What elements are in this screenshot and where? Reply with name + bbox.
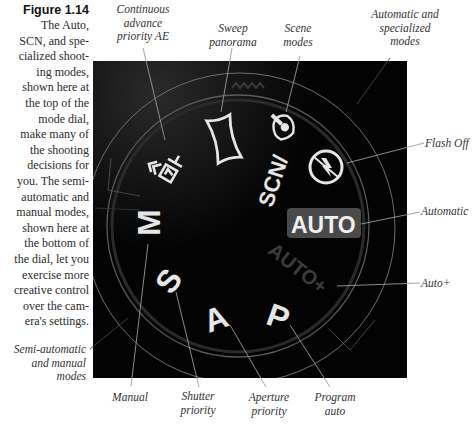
figure-number: Figure 1.14 xyxy=(0,2,89,18)
callout-program-auto: Program auto xyxy=(305,391,365,418)
auto-mode-badge: AUTO xyxy=(287,208,361,238)
caption-line: ing modes, xyxy=(0,65,89,81)
caption-line: creative control xyxy=(0,283,89,299)
callout-line: Program xyxy=(305,391,365,405)
auto-mode-label: AUTO xyxy=(291,212,356,238)
callout-line: Aperture xyxy=(238,391,300,405)
caption-line: The Auto, xyxy=(0,18,89,34)
mode-dial: SCN/ AUTO AUTO+ M S xyxy=(93,61,407,378)
caption-line: the top of the xyxy=(0,96,89,112)
callout-line: modes xyxy=(270,36,326,50)
caption-line: make many of xyxy=(0,127,89,143)
caption-line: SCN, and spe- xyxy=(0,34,89,50)
callout-automatic-specialized: Automatic and specialized modes xyxy=(355,8,455,49)
callout-aperture-priority: Aperture priority xyxy=(238,391,300,418)
callout-line: priority xyxy=(170,404,226,418)
callout-line: and manual xyxy=(0,357,86,371)
callout-line: Scene xyxy=(270,22,326,36)
callout-scene-modes: Scene modes xyxy=(270,22,326,49)
callout-line: modes xyxy=(0,370,86,384)
callout-line: specialized xyxy=(355,22,455,36)
callout-auto-plus: Auto+ xyxy=(421,277,450,291)
figure-caption: Figure 1.14 The Auto, SCN, and spe- cial… xyxy=(0,2,89,330)
callout-line: Semi-automatic xyxy=(0,343,86,357)
caption-line: mode dial, xyxy=(0,112,89,128)
callout-line: priority AE xyxy=(100,30,186,44)
callout-manual: Manual xyxy=(100,391,160,405)
callout-automatic: Automatic xyxy=(421,205,468,219)
callout-line: Shutter xyxy=(170,390,226,404)
callout-line: panorama xyxy=(198,36,268,50)
caption-line: automatic and xyxy=(0,190,89,206)
callout-line: advance xyxy=(100,17,186,31)
caption-line: the dial, let you xyxy=(0,252,89,268)
callout-semi-automatic: Semi-automatic and manual modes xyxy=(0,343,86,384)
caption-line: the shooting xyxy=(0,143,89,159)
manual-mode-label: M xyxy=(131,209,167,236)
caption-line: exercise more xyxy=(0,268,89,284)
callout-line: auto xyxy=(305,405,365,419)
callout-line: modes xyxy=(355,35,455,49)
callout-sweep-panorama: Sweep panorama xyxy=(198,22,268,49)
caption-line: cialized shoot- xyxy=(0,49,89,65)
callout-line: priority xyxy=(238,405,300,419)
caption-line: era's settings. xyxy=(0,314,89,330)
callout-line: Sweep xyxy=(198,22,268,36)
callout-line: Automatic and xyxy=(355,8,455,22)
caption-line: over the cam- xyxy=(0,299,89,315)
caption-line: shown here at xyxy=(0,221,89,237)
caption-line: manual modes, xyxy=(0,205,89,221)
caption-line: the bottom of xyxy=(0,236,89,252)
caption-line: shown here at xyxy=(0,80,89,96)
callout-line: Continuous xyxy=(100,3,186,17)
callout-continuous-advance: Continuous advance priority AE xyxy=(100,3,186,44)
callout-flash-off: Flash Off xyxy=(425,137,469,151)
caption-line: you. The semi- xyxy=(0,174,89,190)
mode-dial-photo: SCN/ AUTO AUTO+ M S xyxy=(93,61,407,378)
callout-shutter-priority: Shutter priority xyxy=(170,390,226,417)
caption-line: decisions for xyxy=(0,158,89,174)
